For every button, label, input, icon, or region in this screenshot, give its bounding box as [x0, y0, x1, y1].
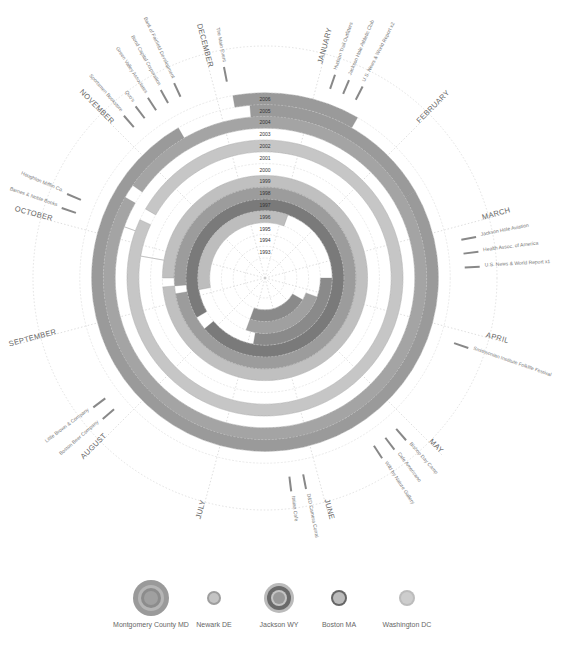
month-label: APRIL: [485, 330, 510, 345]
year-label: 2004: [259, 119, 270, 125]
year-label: 1997: [259, 202, 270, 208]
ring-segment: [124, 227, 135, 231]
employer-label: Bank of Fairfield Development: [143, 16, 177, 80]
month-label: JUNE: [322, 498, 336, 520]
employer-label: D&D Camera Corral: [306, 493, 320, 538]
year-label: 2001: [259, 155, 270, 161]
year-label: 2003: [259, 131, 270, 137]
month-label: OCTOBER: [14, 204, 54, 223]
employer-label: The Main Event: [215, 27, 228, 63]
year-label: 2006: [259, 96, 270, 102]
year-label: 1999: [259, 178, 270, 184]
year-label: 2005: [259, 108, 270, 114]
legend-swatch-icon: [352, 578, 462, 618]
legend: Montgomery County MD Newark DE Jackson W…: [0, 578, 561, 648]
month-label: FEBRUARY: [415, 88, 452, 125]
month-label: SEPTEMBER: [8, 327, 58, 348]
ring-segment: [141, 256, 153, 258]
employer-label: Smithsonian Institute Folklife Festival: [473, 345, 553, 377]
year-label: 1995: [259, 226, 270, 232]
year-label: 1998: [259, 190, 270, 196]
employer-label: Little Brown & Company: [43, 406, 90, 443]
legend-label: Washington DC: [352, 621, 462, 628]
radial-timeline-chart: 1993199419951996199719981999200020012002…: [0, 0, 561, 560]
year-label: 1994: [259, 237, 270, 243]
ring-segment: [152, 258, 164, 260]
month-label: DECEMBER: [195, 23, 215, 69]
month-label: MARCH: [481, 205, 511, 221]
employer-label: Jackson Hole Aviation: [480, 222, 529, 237]
month-label: JULY: [194, 499, 208, 520]
employer-label: Italian Cafe: [291, 496, 300, 522]
employer-label: Health Assoc. of America: [483, 239, 539, 252]
year-label: 1993: [259, 249, 270, 255]
employer-label: Quo's: [124, 89, 137, 103]
month-label: JANUARY: [316, 27, 334, 65]
year-label: 2000: [259, 167, 270, 173]
year-label: 1996: [259, 214, 270, 220]
legend-item-washington: Washington DC: [352, 578, 462, 622]
year-label: 2002: [259, 143, 270, 149]
employer-label: U.S. News & World Report x1: [484, 258, 550, 267]
month-label: MAY: [427, 437, 445, 455]
